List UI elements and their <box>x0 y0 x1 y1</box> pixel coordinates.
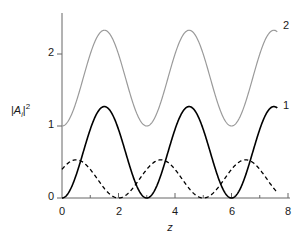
y-tick-label-1: 1 <box>38 119 54 130</box>
x-tick-label-2: 2 <box>112 206 126 217</box>
y-axis-title-superscript: 2 <box>26 102 30 111</box>
x-axis-title: z <box>163 222 177 233</box>
x-tick-label-6: 6 <box>225 206 239 217</box>
y-tick-label-2: 2 <box>38 47 54 58</box>
x-tick-label-4: 4 <box>168 206 182 217</box>
series-label-2: 2 <box>283 20 289 31</box>
x-tick-label-8: 8 <box>281 206 295 217</box>
y-tick-label-0: 0 <box>38 191 54 202</box>
series-label-1: 1 <box>283 100 289 111</box>
y-axis-title: |Ai|2 <box>11 101 30 120</box>
x-tick-label-0: 0 <box>55 206 69 217</box>
chart-figure: 2 1 0 0 2 4 6 8 z |Ai|2 2 1 <box>0 0 301 242</box>
